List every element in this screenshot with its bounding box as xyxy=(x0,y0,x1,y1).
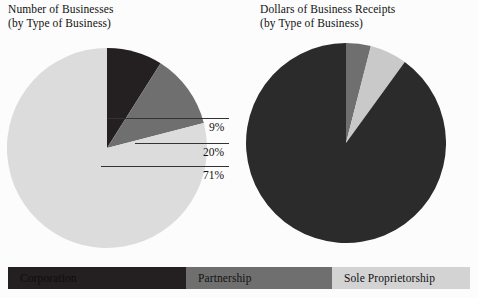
chart-title-left-main: Number of Businesses xyxy=(8,3,114,15)
pie-right-svg xyxy=(246,43,446,243)
chart-title-left: Number of Businesses (by Type of Busines… xyxy=(8,3,114,30)
legend-label-corporation: Corporation xyxy=(20,272,77,284)
chart-title-left-sub: (by Type of Business) xyxy=(8,17,114,31)
legend-item-corporation: Corporation xyxy=(8,267,186,289)
legend-item-partnership: Partnership xyxy=(186,267,332,289)
leader-line-sole-left xyxy=(101,166,229,167)
leader-line-corporation-left xyxy=(108,118,229,119)
legend-label-partnership: Partnership xyxy=(198,272,251,284)
chart-panel-number-of-businesses: Number of Businesses (by Type of Busines… xyxy=(0,0,240,258)
legend-item-sole-proprietorship: Sole Proprietorship xyxy=(332,267,470,289)
chart-title-right-main: Dollars of Business Receipts xyxy=(260,3,395,15)
chart-legend: Corporation Partnership Sole Proprietors… xyxy=(8,267,470,289)
chart-title-right: Dollars of Business Receipts (by Type of… xyxy=(260,3,395,30)
leader-line-partnership-left xyxy=(135,143,229,144)
pie-left-svg xyxy=(7,48,207,248)
pct-label-sole-left: 71% xyxy=(203,169,224,181)
pie-chart-number-of-businesses xyxy=(7,48,207,248)
legend-label-sole-proprietorship: Sole Proprietorship xyxy=(344,272,435,284)
chart-panel-dollars-of-business-receipts: Dollars of Business Receipts (by Type of… xyxy=(240,0,478,258)
pct-label-partnership-left: 20% xyxy=(203,146,224,158)
pct-label-corporation-left: 9% xyxy=(209,121,224,133)
chart-title-right-sub: (by Type of Business) xyxy=(260,17,395,31)
pie-chart-dollars-of-business-receipts xyxy=(246,43,446,243)
